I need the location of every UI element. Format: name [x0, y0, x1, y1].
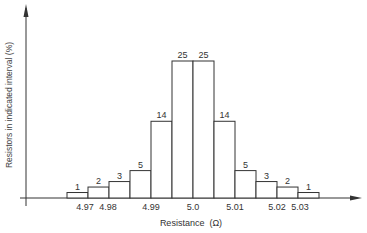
- x-tick-labels: 4.974.984.995.05.015.025.03: [76, 202, 309, 212]
- bar-value-label: 14: [219, 110, 229, 120]
- bars: [67, 61, 319, 198]
- x-tick-label: 4.99: [142, 202, 160, 212]
- bar-value-label: 2: [96, 176, 101, 186]
- histogram-bar: [88, 187, 109, 198]
- bar-value-label: 1: [306, 182, 311, 192]
- histogram-bar: [109, 182, 130, 198]
- x-axis-arrow-icon: [350, 196, 362, 201]
- histogram-bar: [193, 61, 214, 198]
- histogram-bar: [67, 193, 88, 198]
- histogram-bar: [151, 121, 172, 198]
- bar-value-label: 1: [75, 182, 80, 192]
- histogram-chart: 1235142525145321 4.974.984.995.05.015.02…: [0, 0, 367, 233]
- histogram-bar: [172, 61, 193, 198]
- y-axis-label: Resistors in indicated interval (%): [4, 42, 14, 168]
- histogram-bar: [277, 187, 298, 198]
- bar-value-label: 3: [117, 171, 122, 181]
- histogram-bar: [214, 121, 235, 198]
- x-tick-label: 5.0: [187, 202, 200, 212]
- x-tick-label: 5.03: [291, 202, 309, 212]
- x-tick-label: 4.97: [76, 202, 94, 212]
- x-tick-label: 4.98: [99, 202, 117, 212]
- y-axis-arrow-icon: [24, 4, 29, 17]
- histogram-bar: [235, 171, 256, 198]
- bar-value-label: 25: [198, 50, 208, 60]
- bar-value-label: 5: [138, 160, 143, 170]
- histogram-bar: [130, 171, 151, 198]
- histogram-bar: [256, 182, 277, 198]
- x-axis-label: Resistance (Ω): [160, 218, 222, 228]
- bar-value-label: 2: [285, 176, 290, 186]
- y-axis: [24, 4, 29, 206]
- bar-value-label: 14: [156, 110, 166, 120]
- x-tick-label: 5.01: [226, 202, 244, 212]
- bar-value-label: 3: [264, 171, 269, 181]
- bar-value-label: 5: [243, 160, 248, 170]
- bar-value-label: 25: [177, 50, 187, 60]
- x-tick-label: 5.02: [268, 202, 286, 212]
- histogram-bar: [298, 193, 319, 198]
